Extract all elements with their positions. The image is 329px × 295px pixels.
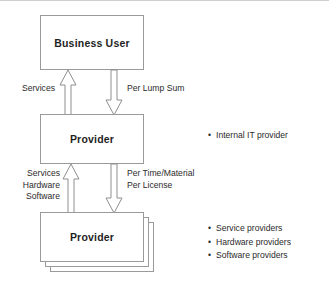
- node-provider-external-label: Provider: [41, 231, 143, 243]
- diagram-canvas: Business User Services Per Lump Sum Prov…: [0, 0, 329, 295]
- annotation-item: Service providers: [208, 222, 291, 236]
- edge-label-services-hardware-software: Services Hardware Software: [8, 168, 60, 203]
- annotation-external-providers: Service providers Hardware providers Sof…: [208, 222, 291, 263]
- edge-label-per-time-material-per-license: Per Time/Material Per License: [127, 168, 194, 191]
- edge-label-line: Per Time/Material: [127, 168, 194, 178]
- annotation-item: Hardware providers: [208, 236, 291, 250]
- edge-label-per-lump-sum: Per Lump Sum: [127, 83, 184, 95]
- edge-label-line: Services: [27, 168, 60, 178]
- node-provider-external[interactable]: Provider: [40, 212, 144, 262]
- node-business-user[interactable]: Business User: [40, 15, 144, 70]
- arrow-services-up: [58, 70, 78, 115]
- arrow-per-time-material-down: [104, 164, 124, 213]
- annotation-internal-provider: Internal IT provider: [208, 129, 288, 143]
- annotation-item: Internal IT provider: [208, 129, 288, 143]
- edge-label-line: Hardware: [23, 180, 60, 190]
- node-provider-internal[interactable]: Provider: [40, 114, 144, 164]
- edge-label-services: Services: [22, 83, 55, 95]
- node-provider-internal-label: Provider: [41, 133, 143, 145]
- annotation-item: Software providers: [208, 249, 291, 263]
- node-business-user-label: Business User: [41, 37, 143, 49]
- arrow-services-hardware-software-up: [61, 164, 81, 213]
- arrow-per-lump-sum-down: [104, 70, 124, 115]
- edge-label-line: Software: [26, 191, 60, 201]
- top-divider: [0, 0, 329, 1]
- edge-label-line: Per License: [127, 180, 172, 190]
